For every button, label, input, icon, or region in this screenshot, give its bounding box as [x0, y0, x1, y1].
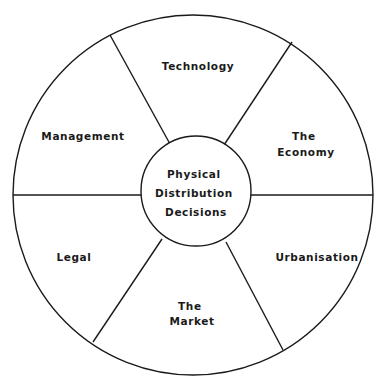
segment-management: Management — [41, 130, 124, 142]
center-label: Physical Distribution Decisions — [155, 168, 237, 218]
segment-legal: Legal — [56, 251, 91, 263]
segment-the-economy: The Economy — [277, 130, 334, 158]
segment-the-market: The Market — [169, 300, 214, 327]
segment-urbanisation: Urbanisation — [275, 251, 358, 263]
wheel-diagram: Physical Distribution Decisions Technolo… — [0, 0, 382, 385]
segment-technology: Technology — [162, 60, 234, 72]
divider-management-technology — [110, 35, 170, 144]
divider-technology-economy — [224, 42, 292, 145]
divider-legal-market — [93, 239, 162, 342]
